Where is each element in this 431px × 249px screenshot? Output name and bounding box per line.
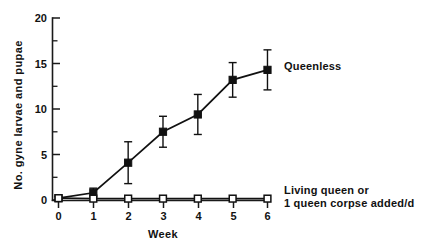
line-chart: No. gyne larvae and pupae 0 5 10 15 20 xyxy=(0,0,431,249)
series-label-queenright-line2: 1 queen corpse added/d xyxy=(284,197,414,209)
x-tick-label: 6 xyxy=(264,210,270,222)
y-axis-major-ticks xyxy=(53,18,61,200)
data-point xyxy=(194,195,201,202)
data-point xyxy=(125,195,132,202)
x-tick-label: 3 xyxy=(160,210,166,222)
data-point xyxy=(160,195,167,202)
data-point xyxy=(194,111,201,118)
x-tick-label: 0 xyxy=(55,210,61,222)
data-point xyxy=(90,195,97,202)
x-tick-label: 1 xyxy=(90,210,96,222)
figure-container: No. gyne larvae and pupae 0 5 10 15 20 xyxy=(0,0,431,249)
y-tick-label: 15 xyxy=(35,58,47,70)
data-point xyxy=(264,195,271,202)
data-point xyxy=(125,159,132,166)
x-axis-tick-labels: 0 1 2 3 4 5 6 xyxy=(55,210,270,222)
x-tick-label: 2 xyxy=(125,210,131,222)
y-tick-label: 5 xyxy=(41,149,47,161)
x-tick-label: 5 xyxy=(230,210,236,222)
series-label-queenright-line1: Living queen or xyxy=(284,184,369,196)
y-tick-label: 10 xyxy=(35,103,47,115)
series-layer xyxy=(55,50,272,202)
x-axis-title: Week xyxy=(148,228,179,240)
data-point xyxy=(264,66,271,73)
x-tick-label: 4 xyxy=(195,210,202,222)
series-label-queenless: Queenless xyxy=(284,60,341,72)
y-tick-label: 20 xyxy=(35,12,47,24)
series-queenless xyxy=(55,50,272,202)
data-point xyxy=(229,195,236,202)
y-axis-title: No. gyne larvae and pupae xyxy=(12,40,24,189)
data-point xyxy=(229,76,236,83)
data-point xyxy=(55,195,62,202)
y-tick-label: 0 xyxy=(41,194,47,206)
data-point xyxy=(159,128,166,135)
y-axis-tick-labels: 0 5 10 15 20 xyxy=(35,12,47,206)
